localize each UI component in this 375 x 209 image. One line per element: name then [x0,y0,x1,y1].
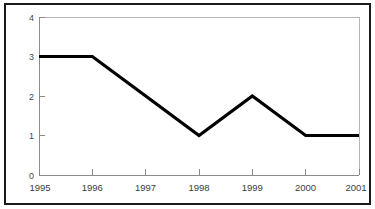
x-axis-label-1996: 1996 [82,182,103,193]
plot-background [39,17,359,175]
chart-screenshot: 0 1 2 3 4 1995 1996 1997 1998 1999 20 [0,0,375,209]
line-chart-svg: 0 1 2 3 4 1995 1996 1997 1998 1999 20 [6,5,369,203]
chart-frame: 0 1 2 3 4 1995 1996 1997 1998 1999 20 [4,3,371,205]
y-axis-label-1: 1 [29,131,34,141]
x-axis-label-1997: 1997 [135,182,156,193]
x-axis-label-1999: 1999 [242,182,263,193]
x-axis-label-1995: 1995 [29,182,50,193]
x-axis-label-2001: 2001 [345,182,366,193]
x-axis-label-1998: 1998 [188,182,209,193]
chart-plot-container: 0 1 2 3 4 1995 1996 1997 1998 1999 20 [6,5,369,203]
y-axis-label-4: 4 [29,13,34,23]
x-axis-label-2000: 2000 [295,182,316,193]
y-axis-label-2: 2 [29,92,34,102]
y-axis-label-0: 0 [29,171,34,181]
y-axis-label-3: 3 [29,52,34,62]
